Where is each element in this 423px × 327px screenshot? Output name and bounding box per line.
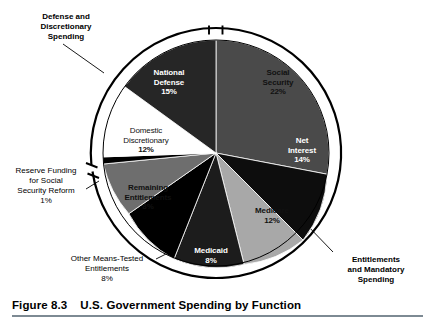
callout-defense-line2: Discretionary <box>40 22 91 31</box>
callout-reserve-line3: Security Reform <box>17 186 74 195</box>
callout-defense-line3: Spending <box>48 32 84 41</box>
callout-reserve-line1: Reserve Funding <box>16 166 77 175</box>
callout-entitlements-line2: and Mandatory <box>348 265 405 274</box>
callout-defense-and-discretionary-spending: Defense and Discretionary Spending <box>14 12 118 42</box>
callout-other-means-tested-line1: Other Means-Tested <box>71 254 143 263</box>
callout-other-means-tested-entitlements: Other Means-Tested Entitlements 8% <box>50 254 164 284</box>
callout-reserve-pct: 1% <box>2 196 90 206</box>
slice-social-security <box>216 40 329 174</box>
caption-divider <box>12 315 423 317</box>
bracket-tick-top <box>209 26 223 35</box>
callout-defense-line1: Defense and <box>42 12 90 21</box>
figure-caption: Figure 8.3 U.S. Government Spending by F… <box>0 299 423 311</box>
callout-reserve-funding-for-social-security-reform: Reserve Funding for Social Security Refo… <box>2 166 90 206</box>
callout-other-means-tested-line2: Entitlements <box>85 264 129 273</box>
callout-other-means-tested-pct: 8% <box>50 274 164 284</box>
figure-title: U.S. Government Spending by Function <box>80 299 301 311</box>
figure-container: National Defense 15% Social Security 22%… <box>0 0 423 327</box>
callout-entitlements-and-mandatory-spending: Entitlements and Mandatory Spending <box>331 255 421 285</box>
callout-entitlements-line1: Entitlements <box>352 255 400 264</box>
figure-number: Figure 8.3 <box>12 299 67 311</box>
leader-line-defense <box>63 44 104 73</box>
figure-caption-block: Figure 8.3 U.S. Government Spending by F… <box>0 299 423 317</box>
callout-reserve-line2: for Social <box>29 176 62 185</box>
pie-chart: National Defense 15% Social Security 22%… <box>0 0 423 300</box>
callout-entitlements-line3: Spending <box>358 275 394 284</box>
